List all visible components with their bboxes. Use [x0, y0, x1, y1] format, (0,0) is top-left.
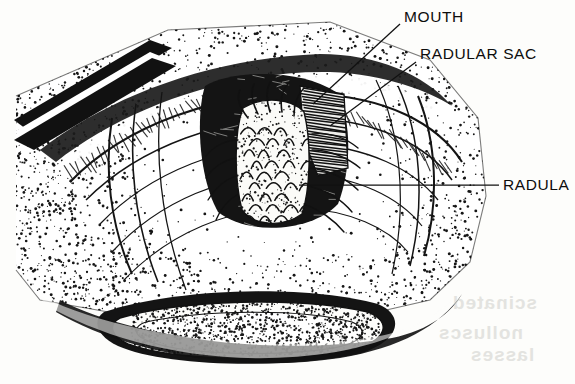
label-radular-sac: RADULAR SAC — [420, 46, 537, 62]
figure-container: scinated nolluscs lasses MOUTH RADULAR S… — [0, 0, 575, 384]
label-mouth: MOUTH — [404, 9, 464, 25]
label-radula: RADULA — [503, 177, 569, 193]
